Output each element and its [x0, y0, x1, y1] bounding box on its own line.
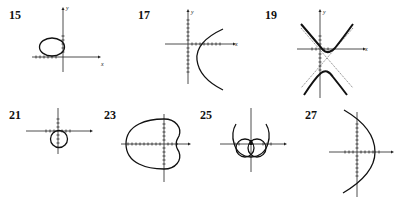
- graph-panel-23: 23: [100, 100, 200, 203]
- svg-text:x: x: [364, 46, 368, 52]
- graph-panel-21: 21: [0, 100, 100, 203]
- graph-23: [100, 100, 200, 203]
- graph-27: [295, 100, 399, 203]
- svg-text:y: y: [65, 5, 69, 11]
- graph-panel-19: 19 x y: [255, 0, 399, 100]
- graph-15: x y: [0, 0, 125, 90]
- graph-21: [0, 100, 100, 203]
- svg-text:y: y: [190, 9, 194, 15]
- graph-panel-25: 25: [200, 100, 295, 203]
- graph-17: x y: [125, 0, 255, 90]
- graph-25: [200, 100, 295, 203]
- graph-panel-17: 17 x y: [125, 0, 255, 90]
- svg-text:x: x: [234, 41, 238, 47]
- svg-text:x: x: [100, 61, 104, 67]
- graph-19: x y: [255, 0, 399, 100]
- graph-panel-27: 27: [295, 100, 399, 203]
- graph-panel-15: 15 x y: [0, 0, 125, 90]
- svg-text:y: y: [322, 9, 326, 15]
